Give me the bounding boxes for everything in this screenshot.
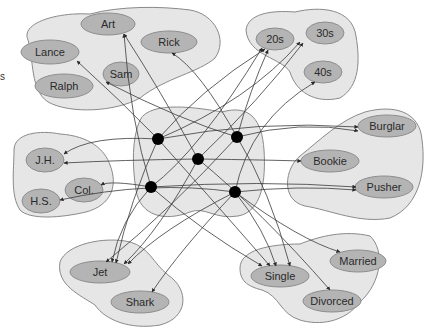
unit-node[interactable]: Sam [103, 62, 139, 86]
hidden-unit-h5[interactable] [229, 186, 241, 198]
unit-node[interactable]: Ralph [35, 74, 93, 98]
unit-label: Art [101, 18, 115, 30]
hidden-unit-h1[interactable] [152, 133, 164, 145]
unit-label: Divorced [310, 295, 353, 307]
unit-label: Rick [158, 36, 180, 48]
unit-node[interactable]: Rick [141, 31, 197, 53]
unit-node[interactable]: 40s [304, 61, 342, 83]
unit-node[interactable]: 30s [306, 22, 344, 44]
hidden-unit-h4[interactable] [145, 181, 157, 193]
unit-node[interactable]: Bookie [301, 150, 359, 172]
unit-label: H.S. [30, 195, 51, 207]
pool-outline [60, 240, 183, 326]
unit-label: 40s [314, 66, 332, 78]
hidden-unit-h3[interactable] [192, 153, 204, 165]
pool-marital: MarriedSingleDivorced [240, 234, 386, 323]
unit-label: Jet [93, 266, 108, 278]
unit-node[interactable]: Shark [111, 291, 169, 313]
unit-label: J.H. [35, 154, 55, 166]
unit-node[interactable]: H.S. [22, 189, 60, 213]
pool-education: J.H.Col.H.S. [13, 132, 113, 217]
pool-ages: 20s30s40s [246, 9, 358, 99]
unit-label: Ralph [50, 80, 79, 92]
unit-node[interactable]: Jet [70, 261, 130, 283]
unit-node[interactable]: J.H. [26, 148, 64, 172]
unit-label: Shark [126, 296, 155, 308]
unit-label: 20s [266, 33, 284, 45]
interactive-activation-network-diagram: s ArtRickLanceSamRalph20s30s40sJ.H.Col.H… [0, 0, 430, 335]
unit-node[interactable]: Single [251, 265, 309, 287]
unit-label: Bookie [313, 155, 347, 167]
pool-gang: JetShark [60, 240, 183, 326]
unit-label: Lance [35, 46, 65, 58]
unit-node[interactable]: Lance [21, 40, 79, 64]
unit-node[interactable]: Pusher [355, 176, 413, 198]
pool-names: ArtRickLanceSamRalph [21, 7, 220, 110]
unit-node[interactable]: 20s [256, 28, 294, 50]
unit-node[interactable]: Burglar [358, 115, 416, 137]
hidden-unit-h2[interactable] [231, 131, 243, 143]
pool-occupation: BurglarBookiePusher [288, 109, 424, 219]
pool-outline [246, 9, 358, 99]
side-fragment-label: s [0, 71, 5, 82]
unit-node[interactable]: Divorced [303, 290, 361, 312]
unit-node[interactable]: Art [81, 13, 135, 35]
unit-label: Single [265, 270, 296, 282]
pools-layer: ArtRickLanceSamRalph20s30s40sJ.H.Col.H.S… [13, 7, 423, 326]
unit-label: Married [339, 255, 376, 267]
unit-label: Sam [110, 68, 133, 80]
unit-label: Pusher [367, 181, 402, 193]
unit-node[interactable]: Married [330, 250, 386, 272]
unit-label: Burglar [369, 120, 405, 132]
unit-label: 30s [316, 27, 334, 39]
unit-node[interactable]: Col. [65, 178, 103, 202]
